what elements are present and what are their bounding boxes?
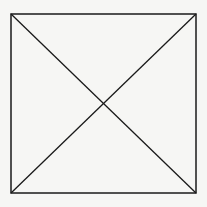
diagram-canvas — [0, 0, 207, 207]
